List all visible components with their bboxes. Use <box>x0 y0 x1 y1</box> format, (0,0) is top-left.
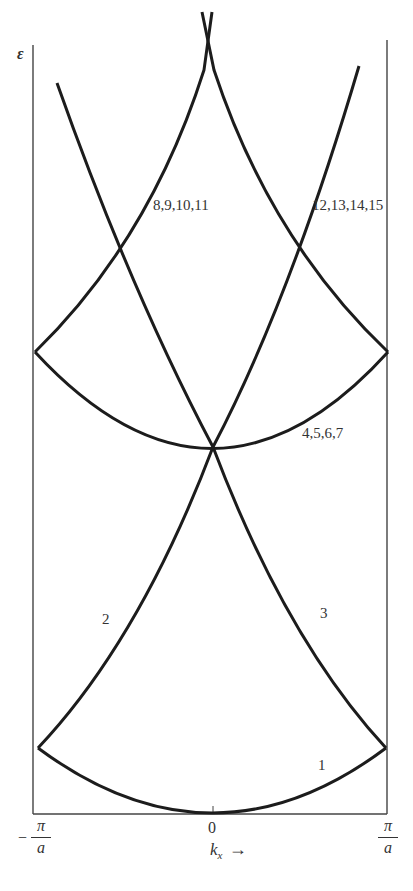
band-2-curve <box>38 447 213 748</box>
band-label-3: 3 <box>320 606 328 621</box>
bands-12-15-curve <box>202 12 388 352</box>
left-tick-numerator: π <box>31 818 51 834</box>
bands-8-11-curve <box>35 12 212 352</box>
arrow-right-icon: → <box>229 839 247 859</box>
x-axis-k: k <box>210 840 218 859</box>
band-1-curve <box>38 748 386 813</box>
descending-curve-left <box>57 83 213 447</box>
band-label-12-15: 12,13,14,15 <box>312 198 383 213</box>
band-label-8-11: 8,9,10,11 <box>153 198 209 213</box>
band-label-1: 1 <box>318 758 326 773</box>
y-axis-label: ε <box>17 46 24 62</box>
left-tick-label: π a <box>31 818 51 856</box>
left-tick-denominator: a <box>31 840 51 856</box>
band-structure-plot <box>0 0 413 891</box>
right-tick-fraction-bar <box>378 837 398 838</box>
band-3-curve <box>213 447 386 748</box>
x-axis-label: kx → <box>210 840 247 861</box>
right-tick-label: π a <box>378 818 398 856</box>
left-tick-sign: − <box>18 829 27 847</box>
band-label-4-7: 4,5,6,7 <box>302 426 343 441</box>
band-label-2: 2 <box>102 612 110 627</box>
right-tick-numerator: π <box>378 818 398 834</box>
left-tick-fraction-bar <box>31 837 51 838</box>
right-tick-denominator: a <box>378 840 398 856</box>
x-axis-subscript: x <box>218 849 223 861</box>
center-tick-label: 0 <box>208 820 216 836</box>
